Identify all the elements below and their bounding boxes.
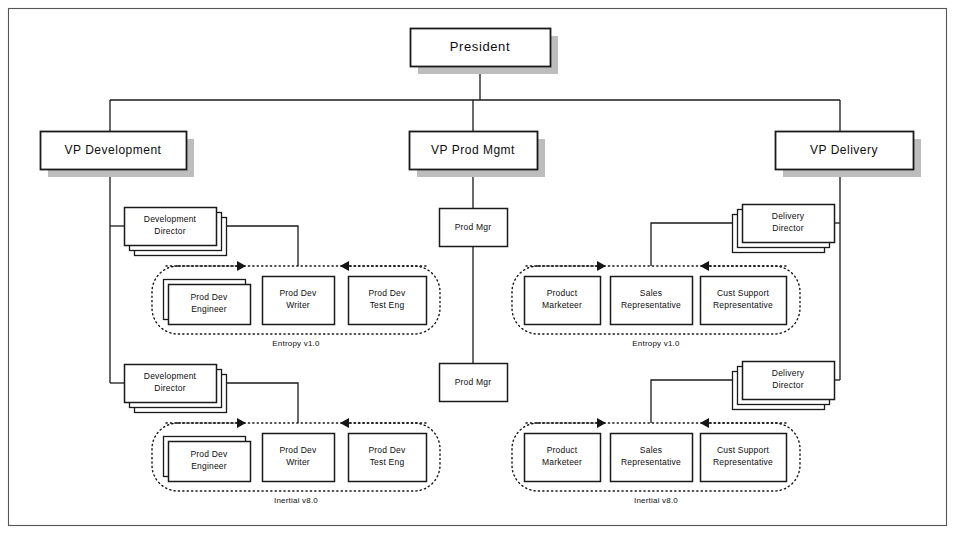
group-dev-inertial-label: Inertial v8.0 [274, 496, 318, 505]
development-director-1[interactable]: DevelopmentDirector [125, 208, 227, 256]
vp-delivery-node-label: VP Delivery [810, 143, 878, 157]
top-layer: PresidentVP DevelopmentVP Prod MgmtVP De… [41, 29, 922, 178]
delivery-director-1[interactable]: DeliveryDirector [733, 205, 835, 253]
vp-delivery-node[interactable]: VP Delivery [776, 132, 922, 178]
dir2-to-writer [216, 383, 298, 423]
group-delivery-inertial: ProductMarketeerSalesRepresentativeCust … [512, 418, 800, 505]
dir1-to-writer [216, 226, 298, 266]
group-arrow-right-head [700, 418, 709, 428]
prod-dev-engineer-label-line2: Engineer [191, 461, 227, 471]
prod-mgr-1-label: Prod Mgr [455, 222, 492, 232]
group-arrow-left-head [597, 418, 606, 428]
development-director-1-label-line1: Development [144, 214, 197, 224]
prod-dev-writer-label-line1: Prod Dev [279, 288, 317, 298]
group-delivery-inertial-label: Inertial v8.0 [634, 496, 678, 505]
group-arrow-right-head [700, 261, 709, 271]
group-arrow-right [340, 261, 426, 271]
group-arrow-right-head [340, 418, 349, 428]
product-marketeer-label-line2: Marketeer [542, 300, 582, 310]
group-arrow-right-head [340, 261, 349, 271]
delivery-director-2[interactable]: DeliveryDirector [733, 362, 835, 410]
development-director-2-label-line2: Director [154, 383, 185, 393]
sales-representative[interactable]: SalesRepresentative [611, 277, 693, 325]
sales-representative-label-line1: Sales [640, 288, 662, 298]
cust-support-representative-label-line2: Representative [713, 300, 773, 310]
prod-dev-engineer[interactable]: Prod DevEngineer [164, 280, 251, 325]
cust-support-representative-label-line1: Cust Support [717, 288, 769, 298]
prod-dev-writer[interactable]: Prod DevWriter [263, 434, 335, 482]
product-marketeer-label-line1: Product [547, 445, 578, 455]
sales-representative[interactable]: SalesRepresentative [611, 434, 693, 482]
org-chart-canvas: Prod DevEngineerProd DevWriterProd DevTe… [0, 0, 954, 533]
prod-dev-engineer-label-line2: Engineer [191, 304, 227, 314]
prod-mgr-2[interactable]: Prod Mgr [440, 364, 508, 402]
delivery-director-1-label-line1: Delivery [772, 211, 805, 221]
prod-dev-engineer-label-line1: Prod Dev [190, 449, 228, 459]
product-marketeer-label-line1: Product [547, 288, 578, 298]
prod-dev-engineer-label-line1: Prod Dev [190, 292, 228, 302]
sales-representative-label-line1: Sales [640, 445, 662, 455]
group-delivery-entropy: ProductMarketeerSalesRepresentativeCust … [512, 261, 800, 348]
sales-representative-label-line2: Representative [621, 300, 681, 310]
product-marketeer[interactable]: ProductMarketeer [525, 434, 601, 482]
vp-development-node-label: VP Development [65, 143, 162, 157]
prod-dev-test-eng-label-line1: Prod Dev [368, 445, 406, 455]
prod-dev-test-eng[interactable]: Prod DevTest Eng [349, 277, 427, 325]
prod-dev-writer-label-line1: Prod Dev [279, 445, 317, 455]
cust-support-representative[interactable]: Cust SupportRepresentative [701, 434, 787, 482]
development-director-2-label-line1: Development [144, 371, 197, 381]
vp-prod-mgmt-node-label: VP Prod Mgmt [431, 143, 515, 157]
dir1-to-sales [651, 223, 742, 266]
delivery-director-2-label-line1: Delivery [772, 368, 805, 378]
group-dev-entropy: Prod DevEngineerProd DevWriterProd DevTe… [152, 261, 440, 348]
prod-dev-test-eng-label-line2: Test Eng [370, 457, 405, 467]
president-node[interactable]: President [411, 29, 559, 75]
product-marketeer[interactable]: ProductMarketeer [525, 277, 601, 325]
prod-dev-test-eng-label-line2: Test Eng [370, 300, 405, 310]
group-arrow-right [340, 418, 426, 428]
cust-support-representative-label-line1: Cust Support [717, 445, 769, 455]
diagram-frame [9, 9, 947, 526]
sales-representative-label-line2: Representative [621, 457, 681, 467]
president-node-label: President [450, 39, 510, 54]
delivery-director-1-label-line2: Director [772, 223, 803, 233]
group-arrow-right [700, 261, 786, 271]
product-marketeer-label-line2: Marketeer [542, 457, 582, 467]
prod-dev-writer-label-line2: Writer [286, 300, 310, 310]
prod-dev-writer-label-line2: Writer [286, 457, 310, 467]
group-dev-entropy-label: Entropy v1.0 [272, 339, 320, 348]
prod-mgr-2-label: Prod Mgr [455, 377, 492, 387]
vp-prod-mgmt-node[interactable]: VP Prod Mgmt [410, 132, 546, 178]
group-arrow-left-head [237, 261, 246, 271]
prod-dev-test-eng-label-line1: Prod Dev [368, 288, 406, 298]
group-delivery-entropy-label: Entropy v1.0 [632, 339, 680, 348]
vp-development-node[interactable]: VP Development [41, 132, 195, 178]
prod-mgr-1[interactable]: Prod Mgr [440, 209, 508, 247]
group-arrow-left-head [597, 261, 606, 271]
prod-dev-engineer[interactable]: Prod DevEngineer [164, 437, 251, 482]
group-arrow-left-head [237, 418, 246, 428]
prod-dev-test-eng[interactable]: Prod DevTest Eng [349, 434, 427, 482]
dir2-to-sales [651, 380, 742, 423]
org-chart-svg: Prod DevEngineerProd DevWriterProd DevTe… [0, 0, 954, 533]
cust-support-representative[interactable]: Cust SupportRepresentative [701, 277, 787, 325]
group-dev-inertial: Prod DevEngineerProd DevWriterProd DevTe… [152, 418, 440, 505]
cust-support-representative-label-line2: Representative [713, 457, 773, 467]
prod-dev-writer[interactable]: Prod DevWriter [263, 277, 335, 325]
development-director-2[interactable]: DevelopmentDirector [125, 365, 227, 413]
group-arrow-right [700, 418, 786, 428]
development-director-1-label-line2: Director [154, 226, 185, 236]
delivery-director-2-label-line2: Director [772, 380, 803, 390]
